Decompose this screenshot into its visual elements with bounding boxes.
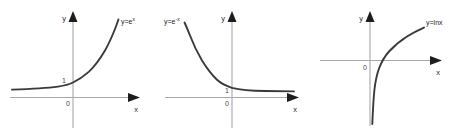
x-axis-arrow-icon (128, 93, 140, 102)
curve-equation-label: y=lnx (426, 19, 443, 27)
x-axis-label: x (436, 68, 440, 77)
origin-label: 0 (363, 64, 367, 71)
y-axis-label: y (221, 14, 225, 23)
x-axis-label: x (293, 105, 297, 114)
curve-equation-exponent: -x (175, 16, 180, 22)
panel-exponential-decay: 1 0 y x y=e-x (155, 0, 310, 134)
curve-equation-base: y=lnx (426, 19, 443, 27)
y-tick-label-one: 1 (225, 87, 229, 94)
x-axis-arrow-icon (287, 93, 299, 102)
curve-equation-label: y=ex (121, 16, 135, 26)
panel-exponential-growth: 1 0 y x y=ex (0, 0, 155, 134)
panel-natural-logarithm: 0 y x y=lnx (310, 0, 463, 134)
y-axis-arrow-icon (366, 11, 375, 22)
y-axis-label: y (62, 14, 66, 23)
x-axis-label: x (134, 105, 138, 114)
origin-label: 0 (66, 100, 70, 107)
x-axis-arrow-icon (430, 56, 442, 65)
curve-exponential-decay (185, 23, 295, 92)
curve-equation-base: y=e (164, 18, 176, 26)
origin-label: 0 (225, 100, 229, 107)
curve-natural-logarithm (372, 28, 424, 124)
curve-equation-base: y=e (121, 18, 133, 26)
three-function-graphs-figure: 1 0 y x y=ex 1 0 y x (0, 0, 463, 134)
y-tick-label-one: 1 (62, 77, 66, 84)
curve-equation-exponent: x (132, 16, 135, 22)
y-axis-label: y (359, 14, 363, 23)
curve-equation-label: y=e-x (164, 16, 180, 26)
y-axis-arrow-icon (228, 11, 237, 22)
y-axis-arrow-icon (69, 11, 78, 22)
